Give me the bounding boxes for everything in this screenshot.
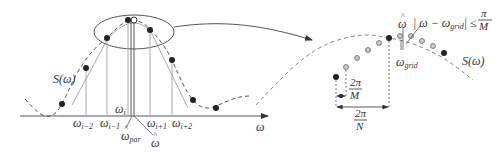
parabola-left: [72, 40, 107, 105]
two-pi-N-num: 2π: [355, 107, 367, 119]
label-w-grid: ωgrid: [396, 55, 419, 70]
sample-dot: [59, 101, 65, 107]
pi-numerator: π: [481, 7, 487, 19]
curve-label-right: S(ω): [462, 54, 484, 68]
sample-dot: [169, 57, 175, 63]
label-w-im1: ωi−1: [100, 116, 120, 131]
M-denom-left: M: [349, 89, 360, 101]
left-spectrum-plot: S(ω) ω ωi ωi−2 ωi−1 ωi+1 ωi+2 ωpar ^ ω ^: [20, 15, 312, 150]
coarse-sample-dot: [441, 50, 447, 56]
curve-label-left: S(ω): [53, 72, 75, 86]
diagram-canvas: S(ω) ω ωi ωi−2 ωi−1 ωi+1 ωi+2 ωpar ^ ω ^: [0, 0, 503, 152]
peak-estimate-dot: [131, 17, 137, 23]
right-zoomed-plot: ^ ω | ω − ωgrid| ≤ π M ωgrid S(ω) 2π M 2…: [256, 7, 492, 132]
N-denom: N: [355, 120, 364, 132]
zoom-arrow: [174, 24, 312, 40]
spectrum-curve: [25, 20, 250, 116]
coarse-sample-dot: [386, 35, 392, 41]
axis-label-omega: ω: [256, 120, 264, 134]
label-w-ip2: ωi+2: [172, 116, 192, 131]
sample-dot: [104, 35, 110, 41]
sample-dot: [147, 27, 153, 33]
sample-dot: [83, 65, 89, 71]
two-pi-M-num: 2π: [350, 76, 362, 88]
label-w-ip1: ωi+1: [147, 116, 167, 131]
sample-dot: [190, 97, 196, 103]
sample-dot: [125, 17, 131, 23]
zoomed-curve: [256, 35, 473, 105]
M-denominator: M: [478, 20, 489, 32]
sample-dot: [213, 105, 219, 111]
parabola-right: [150, 30, 188, 108]
inequality-expr: | ω − ωgrid| ≤: [413, 16, 477, 31]
coarse-sample-dot: [333, 74, 339, 80]
label-w-im2: ωi−2: [73, 116, 93, 131]
label-w-i: ωi: [115, 102, 126, 117]
label-w-hat-right: ω: [398, 17, 406, 31]
